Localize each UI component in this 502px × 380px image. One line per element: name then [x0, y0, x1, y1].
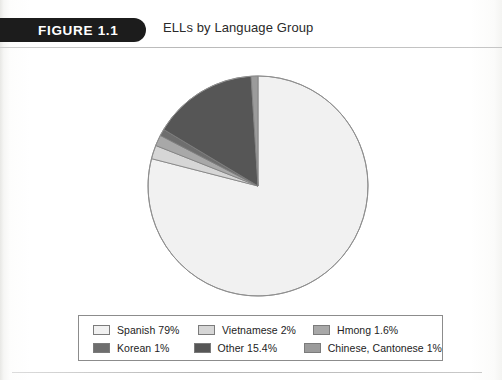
legend-item-chinese-cantonese[interactable]: Chinese, Cantonese 1%	[304, 342, 442, 354]
legend-item-vietnamese[interactable]: Vietnamese 2%	[198, 324, 313, 336]
legend-label-other: Other 15.4%	[218, 342, 278, 354]
legend-item-korean[interactable]: Korean 1%	[93, 342, 194, 354]
legend-swatch-spanish	[93, 325, 110, 335]
figure-number-label: FIGURE 1.1	[0, 23, 119, 38]
legend-label-korean: Korean 1%	[117, 342, 169, 354]
pie-chart	[147, 75, 369, 297]
legend-swatch-korean	[93, 343, 110, 353]
legend-label-spanish: Spanish 79%	[117, 324, 179, 336]
legend-swatch-vietnamese	[198, 325, 215, 335]
legend-swatch-chinese-cantonese	[304, 343, 321, 353]
legend-label-chinese-cantonese: Chinese, Cantonese 1%	[328, 342, 442, 354]
legend-swatch-hmong	[313, 325, 330, 335]
header-divider	[0, 47, 502, 48]
legend-item-spanish[interactable]: Spanish 79%	[93, 324, 198, 336]
legend-item-other[interactable]: Other 15.4%	[194, 342, 304, 354]
legend-swatch-other	[194, 343, 211, 353]
legend-row: Korean 1% Other 15.4% Chinese, Cantonese…	[93, 339, 442, 357]
figure-page: FIGURE 1.1 ELLs by Language Group Spanis…	[0, 0, 502, 380]
pie-chart-area	[0, 52, 502, 307]
figure-header: FIGURE 1.1 ELLs by Language Group	[0, 18, 502, 50]
legend-label-vietnamese: Vietnamese 2%	[222, 324, 296, 336]
legend-row: Spanish 79% Vietnamese 2% Hmong 1.6%	[93, 321, 442, 339]
figure-number-banner: FIGURE 1.1	[0, 18, 146, 42]
pie-slice-group	[148, 76, 368, 296]
page-title: ELLs by Language Group	[163, 20, 313, 35]
chart-legend: Spanish 79% Vietnamese 2% Hmong 1.6% Kor…	[78, 315, 443, 361]
page-bottom-rule	[12, 372, 482, 373]
legend-label-hmong: Hmong 1.6%	[337, 324, 398, 336]
legend-item-hmong[interactable]: Hmong 1.6%	[313, 324, 398, 336]
